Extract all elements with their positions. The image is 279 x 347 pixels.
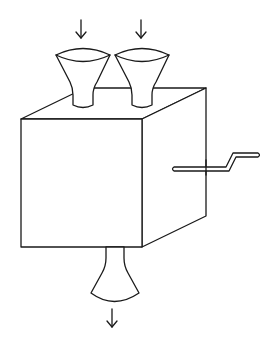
input-arrow-left-icon [76,20,86,38]
output-arrow-icon [107,309,117,327]
cube-front-face [21,119,142,247]
machine-diagram [0,0,279,347]
output-nozzle [91,247,139,302]
input-arrow-right-icon [136,20,146,38]
